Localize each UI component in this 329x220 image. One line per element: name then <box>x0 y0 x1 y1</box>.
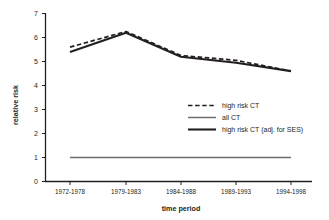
chart-background <box>0 0 329 220</box>
legend-label-all-ct: all CT <box>222 114 241 121</box>
x-axis-title: time period <box>162 204 201 213</box>
y-tick-label-4: 4 <box>34 82 38 89</box>
x-tick-label-3: 1989-1993 <box>221 188 252 195</box>
legend-label-high-risk-ct-adj-ses: high risk CT (adj. for SES) <box>222 126 303 134</box>
x-tick-label-1: 1979-1983 <box>111 188 142 195</box>
y-tick-label-2: 2 <box>34 130 38 137</box>
y-tick-label-1: 1 <box>34 154 38 161</box>
y-tick-label-5: 5 <box>34 58 38 65</box>
y-tick-label-0: 0 <box>34 178 38 185</box>
y-tick-label-6: 6 <box>34 34 38 41</box>
x-tick-label-4: 1994-1998 <box>276 188 307 195</box>
legend-label-high-risk-ct: high risk CT <box>222 102 260 110</box>
x-tick-label-0: 1972-1978 <box>55 188 86 195</box>
chart-figure: 7 6 5 4 3 2 1 0 relative risk 1972-1978 … <box>0 0 329 220</box>
line-chart: 7 6 5 4 3 2 1 0 relative risk 1972-1978 … <box>0 0 329 220</box>
x-tick-label-2: 1984-1988 <box>166 188 197 195</box>
y-axis-title: relative risk <box>11 85 20 125</box>
y-tick-label-7: 7 <box>34 10 38 17</box>
y-tick-label-3: 3 <box>34 106 38 113</box>
